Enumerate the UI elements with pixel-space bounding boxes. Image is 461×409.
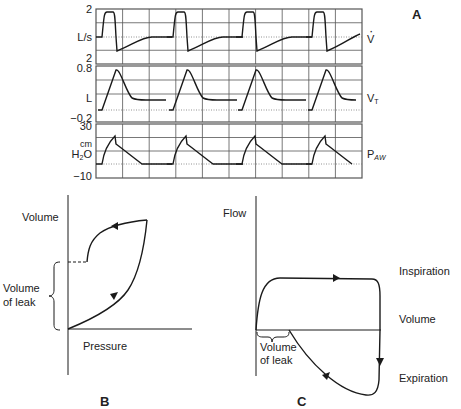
subscript-t: T <box>374 98 378 105</box>
panel-c-label: C <box>297 396 306 408</box>
airway-pressure-signal-label: PAW <box>367 148 386 164</box>
panel-c-inspiration-label: Inspiration <box>399 265 450 277</box>
panel-b-arrow-up-icon <box>110 292 118 300</box>
pressure-unit-h2o: H2O <box>60 148 92 164</box>
panel-c-x-axis-label: Volume <box>399 313 436 325</box>
panel-b-label: B <box>100 396 109 408</box>
volume-axis-top: 0.8 <box>64 62 92 74</box>
panel-a-label: A <box>412 9 421 21</box>
panel-c-leak-label-1: Volume <box>260 341 297 353</box>
panel-b-y-axis-label: Volume <box>22 211 59 223</box>
panel-b-leak-brace <box>49 262 60 330</box>
panel-c-arrow-right-icon <box>333 274 340 282</box>
subscript-aw: AW <box>374 154 385 161</box>
panel-c-arrow-down-icon <box>376 358 384 366</box>
flow-unit: L/s <box>64 31 92 43</box>
panel-c-inspiratory-limb <box>256 278 380 330</box>
panel-c-leak-label-2: of leak <box>260 354 292 366</box>
panel-a-grid <box>96 9 362 178</box>
flow-signal-label: V <box>367 33 461 45</box>
panel-b-arrow-left-icon <box>111 222 118 230</box>
pressure-axis-bottom: −10 <box>60 170 92 182</box>
panel-b-x-axis-label: Pressure <box>83 340 127 352</box>
volume-unit: L <box>64 92 92 104</box>
o-text: O <box>83 148 92 160</box>
pressure-axis-top: 30 <box>64 120 92 132</box>
panel-c-y-axis-label: Flow <box>223 207 246 219</box>
tidal-volume-signal-label: VT <box>367 92 379 108</box>
panel-b-leak-label-1: Volume <box>3 282 40 294</box>
panel-c-expiratory-limb <box>289 330 380 395</box>
panel-b-inspiratory-limb <box>68 220 147 329</box>
flow-axis-top: 2 <box>64 3 92 15</box>
panel-b-leak-label-2: of leak <box>3 296 35 308</box>
h-text: H <box>72 148 80 160</box>
panel-a-waveforms <box>96 12 360 164</box>
panel-c-expiration-label: Expiration <box>399 372 448 384</box>
